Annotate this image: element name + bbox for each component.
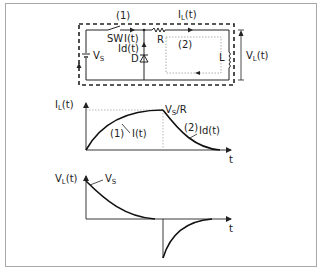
graph1-x-label: t <box>229 154 233 165</box>
graph1-phase1-label: (1) <box>110 128 124 139</box>
vl-phase1-curve <box>86 181 155 219</box>
inductor-voltage-graph: VL(t) VS t <box>55 173 233 258</box>
vl-phase2-curve <box>163 219 212 258</box>
graph1-curve2-label: Id(t) <box>199 125 220 136</box>
resistor-label: R <box>157 34 164 45</box>
charging-curve <box>86 110 163 150</box>
switch-current-arrow-icon <box>130 28 135 33</box>
source-label: VS <box>93 50 105 63</box>
circuit-schematic: (1) (2) IL(t) SW I(t) Id(t) D R L VS VL(… <box>77 9 269 85</box>
graph2-y-label: VL(t) <box>55 173 78 186</box>
vs-pointer <box>90 180 103 185</box>
switch-icon <box>108 26 120 30</box>
graph2-vs-label: VS <box>105 173 117 186</box>
loop-2-arrow-icon <box>195 71 200 75</box>
inductor-label: L <box>219 52 225 63</box>
loop-1-label: (1) <box>116 10 130 21</box>
loop-2-boundary <box>166 37 221 73</box>
loop-1-arrow-icon <box>77 63 82 68</box>
graph1-curve1-label: I(t) <box>132 128 147 139</box>
loop-2-label: (2) <box>178 39 192 50</box>
inductor-current-label: IL(t) <box>178 9 197 22</box>
diode-current-arrow-icon <box>142 42 147 47</box>
inductor-current-graph: IL(t) VS/R (1) I(t) (2) Id(t) t <box>55 99 233 165</box>
graph1-phase2-label: (2) <box>184 122 198 133</box>
rl-circuit-figure: (1) (2) IL(t) SW I(t) Id(t) D R L VS VL(… <box>0 0 321 274</box>
inductor-current-arrow-icon <box>188 28 193 33</box>
id-t-pointer <box>190 134 197 138</box>
voltage-label: VL(t) <box>246 50 269 63</box>
diode-label: D <box>131 53 139 64</box>
inductor-icon <box>229 52 231 68</box>
graph2-x-label: t <box>229 223 233 234</box>
graph1-y-label: IL(t) <box>55 99 74 112</box>
resistor-icon <box>152 28 165 32</box>
graph1-peak-label: VS/R <box>165 104 187 117</box>
